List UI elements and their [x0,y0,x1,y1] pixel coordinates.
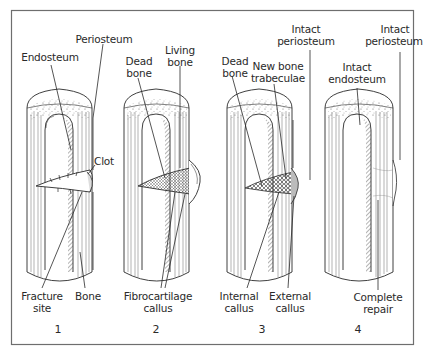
label-internal-callus-line1: Internal [216,290,262,302]
label-intact-periosteum-line2: periosteum [362,35,425,47]
label-new-bone-trabeculae-line2: trabeculae [248,72,308,84]
label-dead-bone-line1: Dead [218,55,252,67]
label-living-bone-line2: bone [162,56,198,68]
label-intact-periosteum-line2: periosteum [272,35,340,47]
label-intact-endosteum-line1: Intact [326,61,388,73]
label-dead-bone-line2: bone [122,67,156,79]
label-complete-repair-line2: repair [350,303,406,315]
label-intact-periosteum-line1: Intact [364,23,425,35]
label-periosteum: Periosteum [72,33,136,45]
bone-panel-1 [27,89,93,281]
label-external-callus-line1: External [266,290,314,302]
label-fracture-site-line1: Fracture [18,290,66,302]
panel-number-1: 1 [50,323,66,336]
bone-panel-4 [325,89,397,281]
label-dead-bone-line1: Dead [122,55,156,67]
label-dead-bone-line2: bone [218,67,252,79]
label-fibrocartilage-callus-line1: Fibrocartilage [120,290,196,302]
label-bone: Bone [72,290,104,302]
panel-number-4: 4 [350,323,366,336]
label-internal-callus-line2: callus [216,302,262,314]
panel-number-2: 2 [148,323,164,336]
panel-number-3: 3 [254,323,270,336]
label-clot: Clot [90,155,118,167]
label-fibrocartilage-callus-line2: callus [120,302,196,314]
label-intact-endosteum-line2: endosteum [326,73,388,85]
label-new-bone-trabeculae-line1: New bone [248,60,308,72]
bone-panel-2 [124,89,200,281]
label-external-callus-line2: callus [266,302,314,314]
label-fracture-site-line2: site [18,302,66,314]
bone-panel-3 [227,89,298,281]
label-intact-periosteum-line1: Intact [272,23,340,35]
label-living-bone-line1: Living [162,44,198,56]
label-complete-repair-line1: Complete [350,291,406,303]
label-endosteum: Endosteum [20,51,80,63]
